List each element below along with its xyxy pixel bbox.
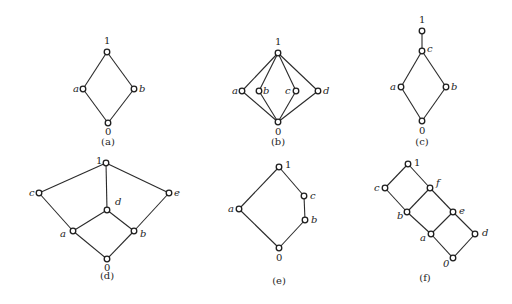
node-b-0 — [275, 119, 281, 125]
edge-e-a-0 — [239, 209, 279, 248]
node-c-b — [443, 84, 449, 90]
node-b-1 — [275, 50, 281, 56]
node-e-b — [302, 217, 308, 223]
edge-d-1-c — [39, 163, 106, 193]
node-label-e-c: c — [310, 190, 316, 201]
node-e-c — [301, 193, 307, 199]
node-label-d-1: 1 — [96, 155, 102, 166]
node-d-a — [70, 228, 76, 234]
node-label-f-1: 1 — [414, 157, 420, 168]
caption-f: (f) — [419, 272, 431, 283]
node-d-1 — [103, 160, 109, 166]
edge-f-c-b — [385, 188, 407, 212]
edge-e-c-b — [304, 196, 305, 220]
edge-b-d-0 — [278, 91, 318, 122]
edge-d-d-a — [73, 210, 107, 231]
edge-b-1-a — [242, 53, 278, 91]
node-label-e-0: 0 — [276, 252, 282, 263]
edge-e-1-a — [239, 167, 279, 209]
edge-a-a-0 — [83, 89, 108, 123]
node-a-b — [131, 86, 137, 92]
edge-d-d-b — [107, 210, 134, 231]
caption-b: (b) — [271, 136, 285, 147]
node-f-d — [472, 231, 478, 237]
node-label-d-d: d — [115, 196, 121, 207]
node-label-f-a: a — [420, 232, 426, 243]
node-b-d — [315, 88, 321, 94]
caption-c: (c) — [415, 136, 429, 147]
node-label-c-b: b — [451, 81, 457, 92]
node-label-b-1: 1 — [275, 36, 281, 47]
node-e-a — [236, 206, 242, 212]
edge-a-1-b — [107, 52, 134, 89]
caption-a: (a) — [101, 136, 115, 147]
edge-f-e-a — [431, 212, 453, 234]
node-e-1 — [276, 164, 282, 170]
node-label-c-c: c — [427, 43, 433, 54]
edge-f-f-e — [430, 188, 453, 212]
node-label-c-a: a — [390, 81, 396, 92]
edge-d-b-0 — [107, 231, 134, 259]
node-c-c — [419, 48, 425, 54]
node-label-b-b: b — [263, 85, 269, 96]
node-label-f-f: f — [435, 177, 442, 188]
edge-f-b-a — [407, 212, 431, 234]
caption-d: (d) — [100, 270, 114, 281]
node-label-c-0: 0 — [419, 125, 425, 136]
node-label-e-b: b — [311, 214, 317, 225]
node-label-f-d: d — [482, 227, 488, 238]
node-label-e-a: a — [228, 203, 234, 214]
node-f-b — [404, 209, 410, 215]
edge-d-c-a — [39, 193, 73, 231]
node-c-0 — [419, 118, 425, 124]
node-d-b — [131, 228, 137, 234]
node-label-d-e: e — [174, 187, 180, 198]
edge-b-a-0 — [242, 91, 278, 122]
edge-d-a-0 — [73, 231, 107, 259]
node-c-1 — [419, 28, 425, 34]
node-f-a — [428, 231, 434, 237]
node-d-d — [104, 207, 110, 213]
node-a-a — [80, 86, 86, 92]
node-label-d-a: a — [60, 228, 66, 239]
node-b-a — [239, 88, 245, 94]
node-label-a-b: b — [139, 83, 145, 94]
edge-a-1-a — [83, 52, 107, 89]
edge-c-b-0 — [422, 87, 446, 121]
edge-f-d-0 — [453, 234, 475, 258]
edge-d-1-d — [106, 163, 107, 210]
node-label-d-c: c — [29, 187, 35, 198]
node-c-a — [398, 84, 404, 90]
node-f-0 — [450, 255, 456, 261]
edge-b-1-d — [278, 53, 318, 91]
node-b-c — [293, 88, 299, 94]
node-label-b-a: a — [232, 85, 238, 96]
node-label-d-b: b — [140, 228, 146, 239]
edge-c-c-b — [422, 51, 446, 87]
edge-f-1-c — [385, 164, 408, 188]
node-f-1 — [405, 161, 411, 167]
edge-e-1-c — [279, 167, 304, 196]
lattice-diagrams-canvas: 1ab0(a)1abcd0(b)1cab0(c)1cedab0(d)1cba0(… — [0, 0, 512, 304]
node-d-e — [166, 190, 172, 196]
edge-c-a-0 — [401, 87, 422, 121]
node-a-1 — [104, 49, 110, 55]
node-d-c — [36, 190, 42, 196]
node-label-b-d: d — [323, 85, 329, 96]
node-a-0 — [105, 120, 111, 126]
edge-d-1-e — [106, 163, 169, 193]
node-label-c-1: 1 — [419, 14, 425, 25]
node-label-f-e: e — [459, 205, 465, 216]
node-label-f-c: c — [374, 182, 380, 193]
caption-e: (e) — [272, 275, 286, 286]
node-f-e — [450, 209, 456, 215]
edge-e-b-0 — [279, 220, 305, 248]
node-label-f-0: 0 — [443, 258, 450, 269]
node-e-0 — [276, 245, 282, 251]
node-label-a-a: a — [73, 83, 79, 94]
edge-f-f-b — [407, 188, 430, 212]
node-label-e-1: 1 — [285, 159, 291, 170]
edge-d-e-b — [134, 193, 169, 231]
node-label-f-b: b — [397, 210, 403, 221]
node-d-0 — [104, 256, 110, 262]
